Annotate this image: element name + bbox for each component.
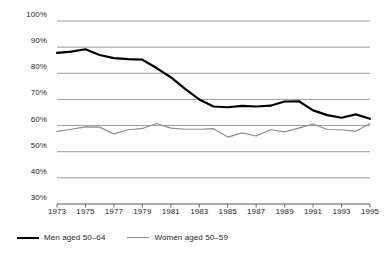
- legend-swatch-men-icon: [17, 237, 39, 239]
- chart-plot-svg: [57, 21, 370, 204]
- legend-item-women: Women aged 50–59: [127, 233, 228, 242]
- x-axis-tick-label: 1985: [219, 207, 237, 216]
- y-axis-tick-label: 60%: [31, 116, 47, 124]
- x-axis-tick-label: 1993: [332, 207, 350, 216]
- y-axis-tick-label: 80%: [31, 63, 47, 71]
- x-axis-labels: 1973197519771979198119831985198719891991…: [57, 207, 370, 221]
- x-axis-tick-label: 1991: [304, 207, 322, 216]
- legend-item-men: Men aged 50–64: [17, 233, 105, 242]
- x-axis-tick-label: 1995: [361, 207, 379, 216]
- legend-swatch-women-icon: [127, 237, 149, 238]
- y-axis-tick-label: 70%: [31, 89, 47, 97]
- y-axis-tick-label: 30%: [31, 194, 47, 202]
- plot-area: [57, 21, 370, 204]
- series-line-men: [57, 49, 370, 119]
- x-axis-tick-label: 1975: [76, 207, 94, 216]
- x-axis-tick-label: 1981: [162, 207, 180, 216]
- x-axis-tick-label: 1983: [190, 207, 208, 216]
- x-axis-tick-label: 1973: [48, 207, 66, 216]
- legend-label-men: Men aged 50–64: [44, 233, 105, 242]
- y-axis-labels: 100%90%80%70%60%50%40%30%: [0, 21, 53, 204]
- chart-legend: Men aged 50–64 Women aged 50–59: [17, 233, 228, 242]
- y-axis-tick-label: 100%: [26, 11, 47, 19]
- x-axis-tick-label: 1977: [105, 207, 123, 216]
- y-axis-tick-label: 50%: [31, 142, 47, 150]
- x-axis-tick-label: 1989: [276, 207, 294, 216]
- legend-label-women: Women aged 50–59: [154, 233, 228, 242]
- x-axis-tick-label: 1979: [133, 207, 151, 216]
- y-axis-tick-label: 90%: [31, 37, 47, 45]
- y-axis-tick-label: 40%: [31, 168, 47, 176]
- x-axis-tick-label: 1987: [247, 207, 265, 216]
- chart-container: 100%90%80%70%60%50%40%30% 19731975197719…: [0, 0, 388, 259]
